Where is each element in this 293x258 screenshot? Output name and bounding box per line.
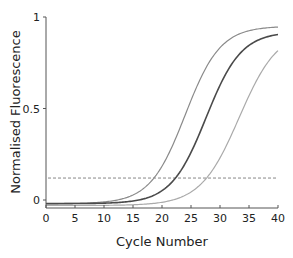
x-tick-label: 5 — [72, 212, 79, 225]
y-ticks: 00.51 — [23, 11, 47, 207]
y-tick-label: 0 — [33, 194, 40, 207]
x-tick-label: 15 — [126, 212, 140, 225]
x-tick-label: 35 — [242, 212, 256, 225]
series-line-sample-early — [46, 27, 278, 204]
x-axis-label: Cycle Number — [116, 234, 209, 249]
y-axis-label: Normalised Fluorescence — [8, 30, 23, 193]
x-tick-label: 0 — [43, 212, 50, 225]
amplification-chart: 0510152025303540 00.51 Cycle Number Norm… — [0, 0, 293, 258]
plot-area — [46, 27, 278, 205]
y-tick-label: 1 — [33, 11, 40, 24]
x-tick-label: 20 — [155, 212, 169, 225]
x-tick-label: 10 — [97, 212, 111, 225]
series-line-sample-late — [46, 51, 278, 206]
x-tick-label: 25 — [184, 212, 198, 225]
x-tick-label: 30 — [213, 212, 227, 225]
y-tick-label: 0.5 — [23, 103, 41, 116]
x-tick-label: 40 — [271, 212, 285, 225]
